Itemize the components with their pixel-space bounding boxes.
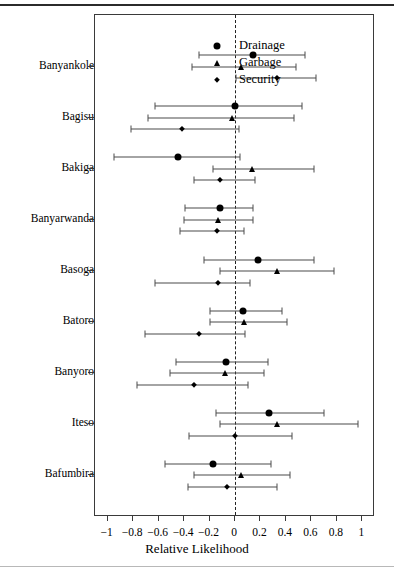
- confidence-interval-line: [165, 463, 271, 464]
- confidence-interval-cap: [215, 409, 216, 416]
- confidence-interval-cap: [313, 165, 314, 172]
- point-estimate-marker-security: [215, 280, 221, 286]
- x-axis-tick-label: −0.8: [122, 527, 143, 539]
- point-estimate-marker-garbage: [249, 166, 255, 172]
- confidence-interval-cap: [293, 114, 294, 121]
- point-estimate-marker-drainage: [266, 409, 273, 416]
- confidence-interval-cap: [252, 216, 253, 223]
- confidence-interval-cap: [209, 307, 210, 314]
- x-axis-tick-label: 0: [231, 527, 237, 539]
- page-bottom-rule: [0, 566, 394, 567]
- x-axis-tick-label: −0.6: [147, 527, 168, 539]
- confidence-interval-line: [213, 168, 314, 169]
- x-axis-tick: [158, 516, 159, 521]
- confidence-interval-cap: [324, 409, 325, 416]
- confidence-interval-cap: [287, 319, 288, 326]
- legend-label: Garbage: [229, 56, 281, 69]
- confidence-interval-cap: [292, 432, 293, 439]
- x-axis-tick: [132, 516, 133, 521]
- legend-label: Drainage: [229, 39, 285, 52]
- point-estimate-marker-drainage: [210, 460, 217, 467]
- confidence-interval-cap: [252, 205, 253, 212]
- confidence-interval-cap: [176, 358, 177, 365]
- legend-item-garbage: Garbage: [213, 54, 285, 71]
- confidence-interval-cap: [240, 154, 241, 161]
- point-estimate-marker-drainage: [216, 205, 223, 212]
- confidence-interval-cap: [170, 370, 171, 377]
- confidence-interval-cap: [213, 165, 214, 172]
- confidence-interval-cap: [180, 228, 181, 235]
- point-estimate-marker-garbage: [222, 370, 228, 376]
- confidence-interval-cap: [270, 460, 271, 467]
- confidence-interval-cap: [199, 52, 200, 59]
- x-axis-tick-label: 0.4: [278, 527, 292, 539]
- confidence-interval-line: [194, 180, 255, 181]
- confidence-interval-cap: [154, 103, 155, 110]
- confidence-interval-cap: [219, 268, 220, 275]
- point-estimate-marker-garbage: [274, 268, 280, 274]
- x-axis-tick-label: −0.2: [198, 527, 219, 539]
- confidence-interval-cap: [184, 216, 185, 223]
- point-estimate-marker-drainage: [174, 154, 181, 161]
- point-estimate-marker-garbage: [238, 472, 244, 478]
- triangle-marker-icon: [213, 54, 229, 71]
- legend: Drainage Garbage Security: [213, 37, 285, 88]
- point-estimate-marker-security: [232, 433, 238, 439]
- confidence-interval-cap: [154, 279, 155, 286]
- confidence-interval-cap: [191, 63, 192, 70]
- x-axis-tick: [259, 516, 260, 521]
- confidence-interval-cap: [268, 358, 269, 365]
- circle-marker-icon: [213, 37, 229, 54]
- point-estimate-marker-garbage: [241, 319, 247, 325]
- x-axis-tick: [285, 516, 286, 521]
- point-estimate-marker-security: [191, 382, 197, 388]
- confidence-interval-cap: [313, 256, 314, 263]
- confidence-interval-line: [155, 106, 303, 107]
- forest-plot-figure: BanyankoleBagisuBakigaBanyarwandaBasogaB…: [0, 0, 394, 570]
- x-axis-tick: [310, 516, 311, 521]
- plot-area: Drainage Garbage Security: [94, 14, 374, 516]
- confidence-interval-cap: [219, 421, 220, 428]
- confidence-interval-cap: [194, 177, 195, 184]
- confidence-interval-cap: [148, 114, 149, 121]
- point-estimate-marker-drainage: [254, 256, 261, 263]
- point-estimate-marker-drainage: [223, 358, 230, 365]
- confidence-interval-line: [189, 435, 292, 436]
- confidence-interval-cap: [334, 268, 335, 275]
- confidence-interval-line: [210, 322, 288, 323]
- diamond-marker-icon: [213, 71, 229, 88]
- x-axis-tick: [336, 516, 337, 521]
- point-estimate-marker-garbage: [274, 421, 280, 427]
- confidence-interval-cap: [250, 279, 251, 286]
- confidence-interval-line: [148, 117, 293, 118]
- point-estimate-marker-security: [214, 228, 220, 234]
- confidence-interval-cap: [289, 472, 290, 479]
- confidence-interval-cap: [189, 432, 190, 439]
- confidence-interval-line: [180, 231, 244, 232]
- confidence-interval-cap: [296, 63, 297, 70]
- confidence-interval-cap: [243, 228, 244, 235]
- legend-item-security: Security: [213, 71, 285, 88]
- x-axis-tick: [209, 516, 210, 521]
- point-estimate-marker-security: [217, 177, 223, 183]
- confidence-interval-line: [170, 373, 264, 374]
- x-axis-tick: [183, 516, 184, 521]
- confidence-interval-cap: [277, 483, 278, 490]
- confidence-interval-cap: [114, 154, 115, 161]
- x-axis-tick-label: 0.2: [252, 527, 266, 539]
- confidence-interval-cap: [137, 381, 138, 388]
- legend-item-drainage: Drainage: [213, 37, 285, 54]
- confidence-interval-cap: [238, 126, 239, 133]
- zero-reference-line: [235, 15, 236, 515]
- x-axis-tick: [234, 516, 235, 521]
- confidence-interval-cap: [264, 370, 265, 377]
- page-top-rule: [0, 4, 394, 6]
- x-axis-title: Relative Likelihood: [0, 542, 394, 555]
- confidence-interval-cap: [185, 205, 186, 212]
- confidence-interval-cap: [255, 177, 256, 184]
- confidence-interval-cap: [187, 483, 188, 490]
- confidence-interval-line: [188, 486, 277, 487]
- confidence-interval-cap: [282, 307, 283, 314]
- confidence-interval-cap: [194, 472, 195, 479]
- x-axis-tick-label: 0.6: [303, 527, 317, 539]
